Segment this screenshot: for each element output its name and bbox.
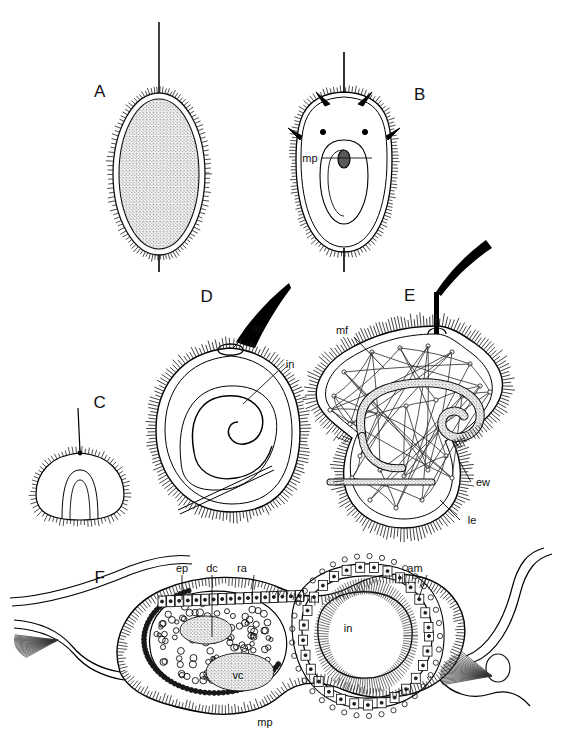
annotation-ew-panel-e: ew [476, 476, 490, 488]
annotation-ep-panel-f: ep [176, 562, 188, 574]
panel-letter-d: D [201, 287, 214, 307]
annotation-am-panel-f: am [407, 562, 422, 574]
panel-f-drawing [10, 548, 552, 719]
annotation-mf-panel-e: mf [336, 324, 348, 336]
annotation-leader-lines [182, 158, 471, 637]
panel-d-drawing [146, 283, 312, 524]
annotation-ra-panel-f: ra [237, 562, 247, 574]
annotation-mp-panel-f: mp [257, 716, 272, 728]
panel-letter-a: A [94, 82, 106, 102]
annotation-in-panel-f: in [344, 622, 353, 634]
panel-letter-f: F [95, 568, 106, 588]
panel-letter-c: C [94, 393, 107, 413]
annotation-vc-panel-f: vc [233, 669, 244, 681]
panel-c-drawing [29, 408, 132, 527]
annotation-mp-panel-b: mp [302, 152, 317, 164]
panel-letter-e: E [404, 286, 416, 306]
panel-letter-b: B [414, 85, 426, 105]
annotation-ap-panel-d: ap [252, 322, 264, 334]
panel-a-drawing [106, 22, 212, 272]
annotation-dc-panel-f: dc [206, 562, 218, 574]
annotation-in-panel-d: in [286, 358, 295, 370]
annotation-le-panel-e: le [468, 514, 477, 526]
figure-artwork [0, 0, 564, 752]
figure-canvas: A B C D E F mp ap in mf ew le ep dc ra a… [0, 0, 564, 752]
